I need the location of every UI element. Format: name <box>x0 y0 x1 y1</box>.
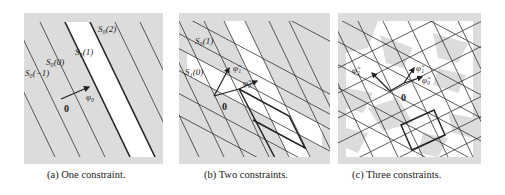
label-origin: 0 <box>401 92 406 103</box>
label-origin: 0 <box>64 103 69 114</box>
panel-b-two-constraints: S₀(1) S₁(0) φ̃₁ φ̃₀ 0 <box>179 13 330 164</box>
label-phi2: φ̃₂ <box>352 65 361 75</box>
panel-c-three-constraints: φ̃₂ φ̃₁ φ̃₀ 0 <box>338 13 481 164</box>
label-phi0: φ̃₀ <box>243 78 252 88</box>
label-s0-2: S₀(2) <box>98 24 116 34</box>
label-s1-0: S₁(0) <box>185 67 203 77</box>
label-phi0: φ₀ <box>86 92 94 102</box>
caption-a: (a) One constraint. <box>47 169 125 180</box>
label-phi1: φ̃₁ <box>416 63 425 73</box>
panel-b-diagram: S₀(1) S₁(0) φ̃₁ φ̃₀ 0 <box>179 13 330 164</box>
label-phi0: φ̃₀ <box>422 75 431 85</box>
label-origin: 0 <box>222 101 227 112</box>
caption-b: (b) Two constraints. <box>204 169 288 180</box>
label-s0-minus1: S₀(−1) <box>25 68 49 78</box>
panel-a-diagram: S₀(−1) S₀(0) S₀(1) S₀(2) 0 φ₀ <box>24 13 163 164</box>
label-phi1: φ̃₁ <box>233 63 242 73</box>
panel-a-one-constraint: S₀(−1) S₀(0) S₀(1) S₀(2) 0 φ₀ <box>24 13 163 164</box>
label-s0-1: S₀(1) <box>75 47 93 57</box>
panel-c-diagram: φ̃₂ φ̃₁ φ̃₀ 0 <box>338 13 481 164</box>
label-s0-1: S₀(1) <box>195 36 213 46</box>
caption-c: (c) Three constraints. <box>352 169 441 180</box>
label-s0-0: S₀(0) <box>46 57 64 67</box>
